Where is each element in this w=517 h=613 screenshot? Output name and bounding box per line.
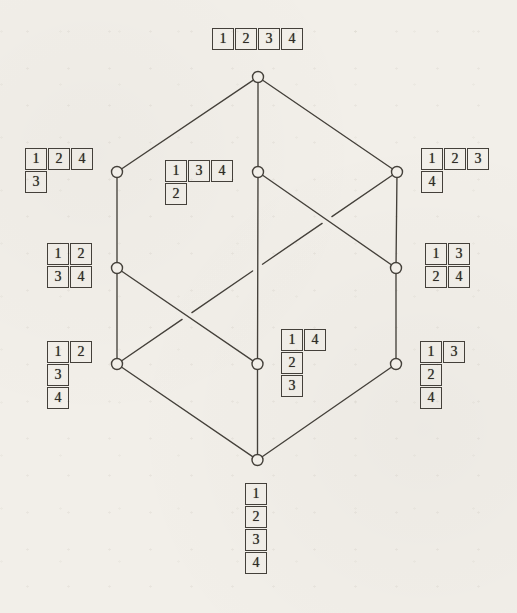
tableau-124-3: 1243 — [25, 148, 93, 193]
tableau-cell: 4 — [281, 28, 303, 50]
tableau-col-1-2-3-4: 1234 — [245, 483, 267, 574]
hasse-diagram-figure: 1234124313421234123413241234142313241234 — [0, 0, 517, 613]
tableau-row: 4 — [245, 552, 267, 574]
tableau-row: 4 — [47, 387, 92, 409]
tableau-cell: 1 — [47, 243, 69, 265]
tableau-13-2-4: 1324 — [420, 341, 465, 409]
tableau-row-1234: 1234 — [212, 28, 303, 50]
tableau-cell: 3 — [245, 529, 267, 551]
tableau-cell: 2 — [420, 364, 442, 386]
tableau-row: 3 — [245, 529, 267, 551]
tableau-cell: 4 — [211, 160, 233, 182]
tableau-13-24: 1324 — [425, 243, 470, 288]
tableau-cell: 2 — [70, 243, 92, 265]
tableau-cell: 3 — [281, 375, 303, 397]
tableau-cell: 3 — [443, 341, 465, 363]
tableau-row: 124 — [25, 148, 93, 170]
tableau-cell: 1 — [165, 160, 187, 182]
tableau-cell: 2 — [425, 266, 447, 288]
tableau-row: 3 — [281, 375, 326, 397]
tableau-cell: 2 — [235, 28, 257, 50]
tableau-cell: 1 — [25, 148, 47, 170]
tableau-cell: 3 — [258, 28, 280, 50]
tableau-row: 134 — [165, 160, 233, 182]
tableau-cell: 1 — [421, 148, 443, 170]
tableau-row: 2 — [165, 183, 233, 205]
tableau-row: 123 — [421, 148, 489, 170]
tableau-cell: 3 — [188, 160, 210, 182]
tableau-row: 12 — [47, 341, 92, 363]
tableau-cell: 4 — [47, 387, 69, 409]
tableau-row: 1 — [245, 483, 267, 505]
tableau-14-2-3: 1423 — [281, 329, 326, 397]
tableau-cell: 4 — [448, 266, 470, 288]
tableau-row: 2 — [281, 352, 326, 374]
tableau-row: 14 — [281, 329, 326, 351]
tableau-row: 3 — [25, 171, 93, 193]
tableaux-layer: 1234124313421234123413241234142313241234 — [0, 0, 517, 613]
tableau-row: 13 — [420, 341, 465, 363]
tableau-cell: 1 — [212, 28, 234, 50]
tableau-cell: 2 — [245, 506, 267, 528]
tableau-134-2: 1342 — [165, 160, 233, 205]
tableau-cell: 1 — [281, 329, 303, 351]
tableau-cell: 2 — [165, 183, 187, 205]
tableau-row: 34 — [47, 266, 92, 288]
tableau-123-4: 1234 — [421, 148, 489, 193]
tableau-cell: 4 — [420, 387, 442, 409]
tableau-row: 12 — [47, 243, 92, 265]
tableau-cell: 3 — [448, 243, 470, 265]
tableau-row: 2 — [245, 506, 267, 528]
tableau-cell: 3 — [47, 266, 69, 288]
tableau-cell: 3 — [467, 148, 489, 170]
tableau-cell: 2 — [281, 352, 303, 374]
tableau-cell: 1 — [47, 341, 69, 363]
tableau-row: 2 — [420, 364, 465, 386]
tableau-cell: 4 — [71, 148, 93, 170]
tableau-cell: 1 — [245, 483, 267, 505]
tableau-cell: 1 — [420, 341, 442, 363]
tableau-row: 13 — [425, 243, 470, 265]
tableau-cell: 4 — [304, 329, 326, 351]
tableau-12-3-4: 1234 — [47, 341, 92, 409]
tableau-12-34: 1234 — [47, 243, 92, 288]
tableau-cell: 2 — [70, 341, 92, 363]
tableau-cell: 4 — [421, 171, 443, 193]
tableau-row: 1234 — [212, 28, 303, 50]
tableau-cell: 3 — [47, 364, 69, 386]
tableau-cell: 3 — [25, 171, 47, 193]
tableau-row: 4 — [420, 387, 465, 409]
tableau-row: 24 — [425, 266, 470, 288]
tableau-cell: 2 — [48, 148, 70, 170]
tableau-cell: 2 — [444, 148, 466, 170]
tableau-cell: 1 — [425, 243, 447, 265]
tableau-row: 4 — [421, 171, 489, 193]
tableau-cell: 4 — [70, 266, 92, 288]
tableau-cell: 4 — [245, 552, 267, 574]
tableau-row: 3 — [47, 364, 92, 386]
